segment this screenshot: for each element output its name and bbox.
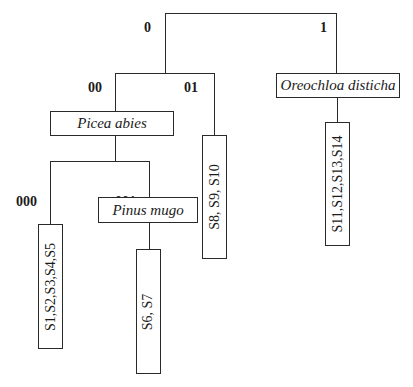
branch-000-line	[50, 161, 51, 224]
node-label: Oreochloa disticha	[281, 77, 396, 94]
leaf-label: S6, S7	[141, 293, 157, 330]
leaf-001: S6, S7	[136, 249, 161, 374]
branch-code-1: 1	[320, 20, 327, 36]
leaf-label: S8, S9, S10	[207, 164, 223, 229]
node-label: Picea abies	[77, 115, 147, 132]
pinus-down-line	[149, 223, 150, 249]
node-oreochloa-disticha: Oreochloa disticha	[276, 73, 400, 98]
branch-code-000: 000	[16, 194, 37, 210]
oreochloa-down-line	[337, 98, 338, 122]
leaf-000: S1,S2,S3,S4,S5	[38, 224, 63, 349]
root-left-branch	[165, 13, 166, 73]
branch-code-00: 00	[88, 80, 102, 96]
level2-horizontal-line	[115, 73, 215, 74]
root-right-branch	[336, 13, 337, 73]
picea-down-line	[115, 136, 116, 161]
root-horizontal-line	[165, 13, 337, 14]
node-pinus-mugo: Pinus mugo	[98, 197, 198, 223]
leaf-1: S11,S12,S13,S14	[325, 122, 350, 246]
leaf-label: S1,S2,S3,S4,S5	[43, 243, 59, 331]
branch-001-line	[149, 161, 150, 197]
level3-horizontal-line	[50, 161, 150, 162]
node-label: Pinus mugo	[112, 202, 183, 219]
leaf-label: S11,S12,S13,S14	[330, 135, 346, 232]
branch-00-line	[115, 73, 116, 111]
branch-code-0: 0	[144, 20, 151, 36]
leaf-01: S8, S9, S10	[202, 135, 227, 259]
branch-01-line	[214, 73, 215, 135]
branch-code-01: 01	[184, 80, 198, 96]
node-picea-abies: Picea abies	[50, 111, 174, 136]
